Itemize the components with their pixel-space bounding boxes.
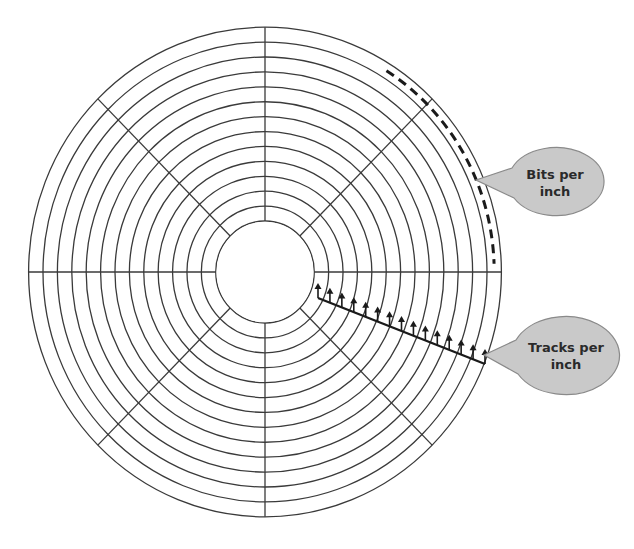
tracks-per-inch-scale xyxy=(315,283,489,364)
arrow-up-icon xyxy=(350,297,357,303)
arrow-up-icon xyxy=(326,288,333,294)
tracks-per-inch-label: Tracks per inch xyxy=(514,339,618,373)
arrow-up-icon xyxy=(410,321,417,327)
arrow-up-icon xyxy=(315,283,322,289)
hole-fill xyxy=(217,222,314,322)
arrow-up-icon xyxy=(422,325,429,331)
bits-per-inch-label: Bits per inch xyxy=(514,166,596,200)
disk-platter-drawing xyxy=(0,0,634,549)
disk-diagram: Bits per inch Tracks per inch xyxy=(0,0,634,549)
arrow-up-icon xyxy=(458,340,465,346)
spindle-hole xyxy=(217,222,314,322)
arrow-up-icon xyxy=(386,311,393,317)
arrow-up-icon xyxy=(398,316,405,322)
